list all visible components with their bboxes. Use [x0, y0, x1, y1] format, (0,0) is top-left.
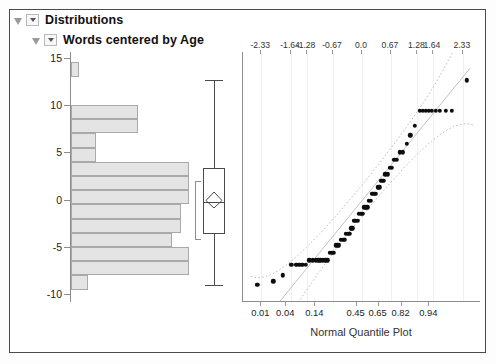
boxplot-lower-whisker [214, 234, 215, 285]
qq-top-tick [390, 50, 391, 54]
qq-bottom-tick-label: 0.65 [369, 307, 387, 318]
qq-top-tick [260, 50, 261, 54]
triangle-icon[interactable] [14, 18, 22, 25]
histogram-y-tick-label: -5 [32, 241, 62, 253]
disclosure-row-variable[interactable]: Words centered by Age [32, 33, 204, 47]
qq-top-axis: -2.33-1.64-1.28-0.670.00.671.281.642.33 [242, 40, 480, 52]
qq-bottom-tick [260, 302, 261, 306]
qq-top-tick [416, 50, 417, 54]
histogram-bar[interactable] [71, 204, 181, 218]
qq-top-tick [306, 50, 307, 54]
histogram-bar[interactable] [71, 162, 189, 176]
histogram-bar[interactable] [71, 190, 189, 204]
histogram-y-tick-label: -10 [32, 288, 62, 300]
chevron-down-icon[interactable] [44, 34, 57, 46]
normal-quantile-plot[interactable] [242, 52, 480, 302]
page-title: Distributions [45, 13, 123, 27]
boxplot-upper-cap [205, 80, 223, 81]
qq-top-tick-label: -1.28 [296, 40, 316, 50]
qq-bottom-tick-label: 0.01 [251, 307, 269, 318]
plots-container: 151050-5-10 -2.33-1.64-1.28-0.670.00.671… [10, 52, 485, 352]
boxplot-mean-diamond [205, 192, 223, 209]
qq-top-tick [290, 50, 291, 54]
qq-top-tick-label: 2.33 [453, 40, 470, 50]
qq-bottom-tick [356, 302, 357, 306]
histogram-y-tick-label: 10 [32, 99, 62, 111]
qq-bottom-tick [428, 302, 429, 306]
qq-top-tick [432, 50, 433, 54]
histogram-y-tick [64, 152, 70, 153]
triangle-icon[interactable] [32, 38, 40, 45]
qq-reference-overlay [243, 52, 480, 301]
histogram-y-tick [64, 58, 70, 59]
histogram-y-tick-label: 15 [32, 52, 62, 64]
qq-bottom-axis: 0.010.040.140.450.650.820.94 [242, 302, 480, 318]
histogram-y-tick [64, 105, 70, 106]
qq-top-tick-label: 0.67 [382, 40, 399, 50]
qq-bottom-tick-label: 0.45 [346, 307, 364, 318]
qq-top-tick [361, 50, 362, 54]
qq-bottom-tick-label: 0.82 [391, 307, 409, 318]
histogram-bar[interactable] [71, 105, 138, 119]
qq-top-tick [462, 50, 463, 54]
histogram-bar[interactable] [71, 148, 96, 162]
histogram-bar[interactable] [71, 247, 189, 261]
box-plot[interactable] [190, 52, 238, 302]
x-axis-label: Normal Quantile Plot [242, 326, 480, 338]
boxplot-upper-whisker [214, 80, 215, 168]
qq-bottom-tick [314, 302, 315, 306]
disclosure-row-distributions[interactable]: Distributions [14, 13, 123, 27]
histogram-y-tick-label: 0 [32, 194, 62, 206]
qq-top-tick-label: -0.67 [322, 40, 342, 50]
histogram[interactable]: 151050-5-10 [40, 52, 195, 302]
qq-bottom-tick-label: 0.14 [305, 307, 323, 318]
histogram-bar[interactable] [71, 119, 138, 133]
histogram-y-tick-label: 5 [32, 146, 62, 158]
histogram-bar[interactable] [71, 233, 172, 247]
qq-bottom-tick [285, 302, 286, 306]
histogram-bar[interactable] [71, 133, 96, 147]
qq-top-tick-label: -2.33 [250, 40, 270, 50]
qq-top-tick-label: 0.0 [355, 40, 367, 50]
qq-top-tick-label: 1.64 [424, 40, 441, 50]
histogram-y-tick [64, 200, 70, 201]
histogram-y-tick [64, 247, 70, 248]
histogram-bar[interactable] [71, 62, 79, 76]
qq-top-tick-label: 1.28 [408, 40, 425, 50]
histogram-bar[interactable] [71, 261, 189, 275]
histogram-bar[interactable] [71, 176, 189, 190]
histogram-bar[interactable] [71, 275, 88, 289]
histogram-bar[interactable] [71, 219, 181, 233]
jmp-distributions-panel: Distributions Words centered by Age 1510… [0, 0, 496, 364]
histogram-y-tick [64, 294, 70, 295]
boxplot-shortest-half-bracket [195, 181, 201, 241]
boxplot-lower-cap [205, 285, 223, 286]
qq-top-tick [332, 50, 333, 54]
qq-bottom-tick [378, 302, 379, 306]
chevron-down-icon[interactable] [26, 14, 39, 26]
qq-bottom-tick-label: 0.04 [276, 307, 294, 318]
variable-title: Words centered by Age [63, 33, 204, 47]
qq-bottom-tick [401, 302, 402, 306]
qq-bottom-tick-label: 0.94 [419, 307, 437, 318]
